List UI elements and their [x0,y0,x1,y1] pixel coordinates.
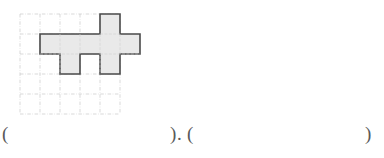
worksheet-page: ( ) . ( ) [0,0,384,158]
answer-paren-close-2: ) [365,124,371,144]
figure-canvas [20,14,120,114]
grid-polyomino-figure [20,14,120,114]
answer-blanks-row: ( ) . ( ) [0,124,384,154]
answer-separator-dot: . [177,124,182,144]
shaded-polyomino-shape [40,14,140,74]
answer-paren-open-1: ( [2,124,8,144]
answer-paren-open-2: ( [187,124,193,144]
answer-paren-close-1: ) [170,124,176,144]
